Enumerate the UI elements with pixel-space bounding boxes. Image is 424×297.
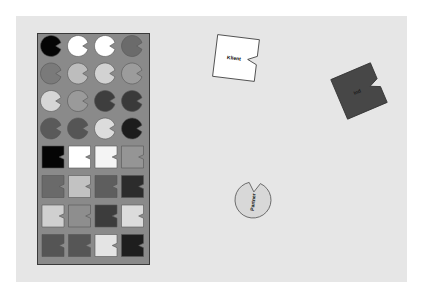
palette-circle-shape[interactable] xyxy=(121,63,141,84)
palette-circle-shape[interactable] xyxy=(68,36,88,57)
palette-square-shape[interactable] xyxy=(122,176,144,198)
palette-square-shape[interactable] xyxy=(42,146,64,168)
palette-square-shape[interactable] xyxy=(95,146,117,168)
palette-circle-shape[interactable] xyxy=(41,91,61,112)
palette-square-shape[interactable] xyxy=(42,205,64,227)
palette-circle-shape[interactable] xyxy=(95,91,115,112)
palette-square-shape[interactable] xyxy=(95,205,117,227)
palette-circle-shape[interactable] xyxy=(68,63,88,84)
drawing-surface[interactable]: KlientIndPartner xyxy=(0,0,424,297)
palette-square-shape[interactable] xyxy=(69,146,91,168)
partner-shape[interactable]: Partner xyxy=(233,181,272,220)
palette-square-shape[interactable] xyxy=(95,176,117,198)
palette-circle-shape[interactable] xyxy=(95,63,115,84)
palette-circle-shape[interactable] xyxy=(122,118,142,139)
palette-circle-shape[interactable] xyxy=(68,91,88,112)
palette-square-shape[interactable] xyxy=(122,146,144,168)
palette-circle-shape[interactable] xyxy=(68,118,88,139)
palette-square-shape[interactable] xyxy=(95,235,117,257)
palette-circle-shape[interactable] xyxy=(41,118,61,139)
dark-shape[interactable]: Ind xyxy=(331,63,387,119)
palette-square-shape[interactable] xyxy=(122,205,144,227)
palette-circle-shape[interactable] xyxy=(122,91,142,112)
palette-circle-shape[interactable] xyxy=(41,63,61,84)
palette-square-shape[interactable] xyxy=(69,176,91,198)
palette-square-shape[interactable] xyxy=(122,235,144,257)
palette-circle-shape[interactable] xyxy=(122,36,142,57)
palette-square-shape[interactable] xyxy=(69,205,91,227)
palette-square-shape[interactable] xyxy=(69,235,91,257)
palette-square-shape[interactable] xyxy=(42,235,64,257)
palette-circle-shape[interactable] xyxy=(95,36,115,57)
palette-circle-shape[interactable] xyxy=(95,118,115,139)
palette-circle-shape[interactable] xyxy=(41,36,61,57)
palette-square-shape[interactable] xyxy=(42,176,64,198)
klient-shape[interactable]: Klient xyxy=(213,35,260,82)
